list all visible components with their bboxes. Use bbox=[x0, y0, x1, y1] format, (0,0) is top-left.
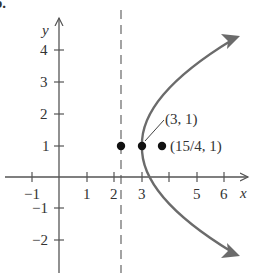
parabola-figure: b. −1 1 2 3 5 6 x bbox=[0, 0, 260, 273]
focus-label: (15/4, 1) bbox=[170, 138, 222, 155]
x-tick-label: 5 bbox=[193, 186, 201, 202]
y-axis-label: y bbox=[40, 22, 49, 38]
y-tick-label: 2 bbox=[40, 106, 48, 122]
focus-point bbox=[158, 142, 166, 150]
x-tick-label: 6 bbox=[220, 186, 228, 202]
directrix-point bbox=[117, 142, 125, 150]
y-tick-label: −1 bbox=[32, 200, 48, 216]
y-tick-labels: 4 3 2 1 −1 −2 y bbox=[32, 22, 50, 248]
arrow-down-right-icon bbox=[221, 243, 240, 258]
vertex-point bbox=[138, 142, 146, 150]
x-tick-label: 3 bbox=[138, 186, 146, 202]
panel-label: b. bbox=[0, 0, 6, 11]
y-tick-label: 1 bbox=[42, 138, 50, 154]
points bbox=[117, 142, 166, 150]
x-axis-label: x bbox=[239, 185, 247, 201]
y-tick-label: 3 bbox=[40, 74, 48, 90]
y-tick-label: −2 bbox=[32, 232, 48, 248]
x-tick-labels: −1 1 2 3 5 6 x bbox=[24, 185, 247, 202]
arrow-up-right-icon bbox=[221, 34, 240, 49]
y-tick-label: 4 bbox=[40, 42, 48, 58]
plot-canvas: b. −1 1 2 3 5 6 x bbox=[0, 0, 260, 273]
x-tick-label: 1 bbox=[83, 186, 91, 202]
vertex-leader-line bbox=[145, 120, 164, 141]
x-tick-label: 2 bbox=[110, 186, 118, 202]
vertex-label: (3, 1) bbox=[165, 111, 198, 128]
